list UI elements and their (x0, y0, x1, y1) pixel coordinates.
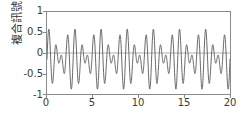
x-tick-label: 5 (77, 97, 107, 108)
signal-plot-svg (47, 12, 230, 94)
x-tick-label: 0 (31, 97, 61, 108)
chart-figure: 複合訊號 1 0.5 0 -0.5 -1 0 5 10 15 20 (0, 0, 241, 118)
signal-line (47, 29, 230, 89)
plot-area (46, 11, 231, 95)
y-tick-label: 0 (3, 48, 43, 58)
x-axis-ticklabels: 0 5 10 15 20 (0, 97, 241, 113)
y-tick-label: -0.5 (3, 69, 43, 79)
x-tick-label: 10 (123, 97, 153, 108)
y-tick-label: 0.5 (3, 27, 43, 37)
x-tick-label: 15 (169, 97, 199, 108)
x-tick-label: 20 (215, 97, 241, 108)
y-tick-label: 1 (3, 6, 43, 16)
